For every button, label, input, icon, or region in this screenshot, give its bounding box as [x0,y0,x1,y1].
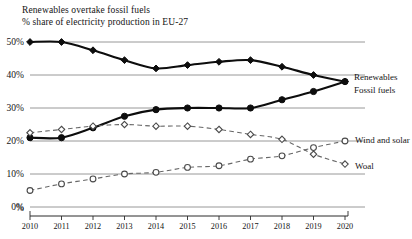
series-label-renewables: Renewables [354,72,398,82]
series-point-woal-2013 [121,121,127,127]
series-point-wind-and-solar-2016 [216,163,222,169]
chart-container: Renewables overtake fossil fuels % share… [0,0,412,239]
y-tick-30: 30% [7,103,25,113]
series-labels: RenewablesFossil fuelsWind and solarWoal [354,72,410,171]
series-point-fossil-fuels-2019 [310,72,317,79]
series-point-renewables-2014 [153,107,159,113]
x-tick-2010: 2010 [22,222,38,231]
series-point-fossil-fuels-2010 [27,39,34,46]
series-point-renewables-2016 [216,105,222,111]
series-point-woal-2015 [184,123,190,129]
series-point-fossil-fuels-2011 [58,39,65,46]
series-point-wind-and-solar-2017 [248,156,254,162]
series-point-woal-2011 [58,126,64,132]
series-point-renewables-2017 [247,105,253,111]
series-point-wind-and-solar-2014 [153,169,159,175]
series-point-renewables-2011 [58,135,64,141]
series-point-renewables-2019 [310,88,316,94]
series-point-wind-and-solar-2013 [122,171,128,177]
series-point-fossil-fuels-2018 [279,63,286,70]
series-point-fossil-fuels-2014 [153,65,160,72]
series-point-wind-and-solar-2020 [342,138,348,144]
series-line-woal [30,125,345,165]
series-point-renewables-2015 [184,105,190,111]
x-axis [30,211,348,220]
y-tick-10: 10% [7,169,25,179]
series-point-woal-2020 [342,161,348,167]
series-point-fossil-fuels-2016 [216,58,223,65]
series-markers [27,39,349,194]
x-tick-2017: 2017 [242,222,258,231]
series-label-coal: Woal [355,161,374,171]
x-tick-2019: 2019 [305,222,321,231]
series-point-renewables-2018 [279,97,285,103]
y-axis-unit-label: % [16,203,24,213]
x-tick-2013: 2013 [116,222,132,231]
x-tick-2015: 2015 [179,222,195,231]
y-tick-50: 50% [7,37,25,47]
series-point-wind-and-solar-2010 [27,188,33,194]
series-point-fossil-fuels-2012 [90,47,97,54]
series-point-fossil-fuels-2015 [184,62,191,69]
series-point-wind-and-solar-2019 [311,145,317,151]
series-point-renewables-2020 [342,79,348,85]
series-point-woal-2019 [310,151,316,157]
gridlines [30,42,365,207]
x-tick-2014: 2014 [148,222,164,231]
y-tick-40: 40% [7,70,25,80]
x-tick-2012: 2012 [85,222,101,231]
series-label-wind-and-solar: Wind and solar [355,135,410,145]
x-tick-2018: 2018 [274,222,290,231]
x-axis-tick-labels: 2010201120122013201420152016201720182019… [22,222,353,231]
series-point-woal-2014 [153,123,159,129]
series-point-renewables-2013 [121,113,127,119]
series-point-wind-and-solar-2015 [185,165,191,171]
series-label-fossil-fuels: Fossil fuels [354,85,396,95]
y-tick-20: 20% [7,136,25,146]
series-point-wind-and-solar-2012 [90,176,96,182]
y-axis-tick-labels: 0%10%20%30%40%50% [7,37,25,212]
series-point-wind-and-solar-2018 [279,153,285,159]
plot-area: 0%10%20%30%40%50% 2010201120122013201420… [0,0,412,239]
chart-svg: 0%10%20%30%40%50% 2010201120122013201420… [0,0,412,239]
series-point-woal-2018 [279,136,285,142]
series-point-fossil-fuels-2017 [247,57,254,64]
x-tick-2016: 2016 [211,222,227,231]
series-point-woal-2016 [216,126,222,132]
series-point-fossil-fuels-2013 [121,57,128,64]
x-tick-2011: 2011 [53,222,69,231]
series-point-woal-2017 [247,131,253,137]
series-point-wind-and-solar-2011 [59,181,65,187]
x-tick-2020: 2020 [337,222,353,231]
